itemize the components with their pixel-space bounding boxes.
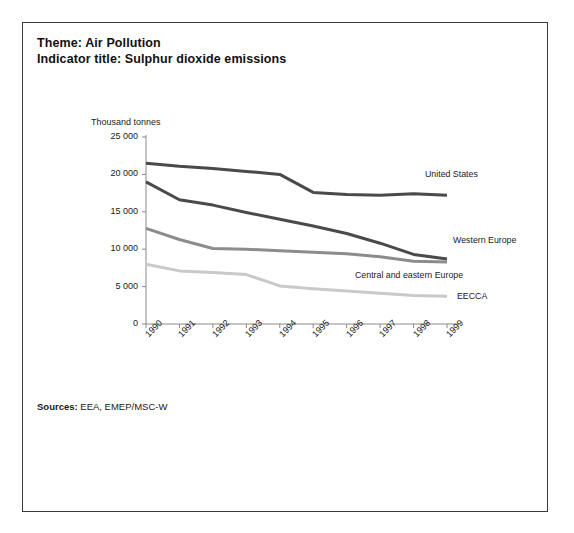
series-label-western-europe: Western Europe	[453, 235, 516, 245]
y-axis-tick-label: 5 000	[88, 281, 138, 291]
series-line	[146, 228, 447, 262]
y-axis-tick-label: 0	[88, 318, 138, 328]
y-axis-tick-label: 20 000	[88, 168, 138, 178]
series-label-eecca: EECCA	[457, 291, 487, 301]
y-axis-unit-label: Thousand tonnes	[91, 117, 161, 127]
series-label-united-states: United States	[425, 169, 478, 179]
line-chart: Thousand tonnes 05 00010 00015 00020 000…	[23, 23, 549, 423]
plot-area	[23, 23, 549, 423]
sources-value: EEA, EMEP/MSC-W	[80, 401, 167, 412]
sources-label: Sources:	[37, 401, 78, 412]
figure-frame: Theme: Air Pollution Indicator title: Su…	[22, 22, 548, 512]
y-axis-tick-label: 15 000	[88, 206, 138, 216]
sources-note: Sources: EEA, EMEP/MSC-W	[37, 401, 167, 412]
y-axis-tick-label: 10 000	[88, 243, 138, 253]
series-line	[146, 163, 447, 195]
series-label-central-and-eastern-europe: Central and eastern Europe	[355, 270, 463, 280]
y-axis-tick-label: 25 000	[88, 131, 138, 141]
